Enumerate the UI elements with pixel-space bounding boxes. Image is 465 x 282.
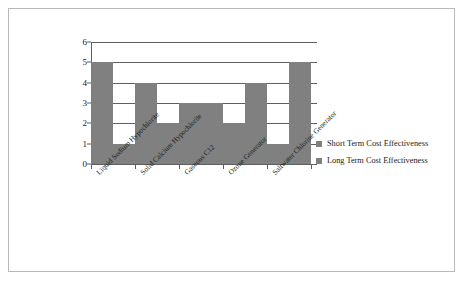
x-tick-mark xyxy=(267,164,268,169)
x-tick-mark xyxy=(135,164,136,169)
y-tick-label-5: 5 xyxy=(83,58,88,67)
gridline-tick-right-6 xyxy=(311,42,317,43)
legend-item[interactable]: Long Term Cost Effectiveness xyxy=(316,157,456,165)
bar xyxy=(91,62,113,164)
x-tick-mark xyxy=(311,164,312,169)
chart-legend: Short Term Cost EffectivenessLong Term C… xyxy=(316,140,456,175)
gridline-tick-right-5 xyxy=(311,62,317,63)
legend-item-label: Long Term Cost Effectiveness xyxy=(327,157,428,165)
legend-item[interactable]: Short Term Cost Effectiveness xyxy=(316,140,456,148)
chart-page-frame: 6543210 Liquid Sodium HypochloriteSolid … xyxy=(8,8,455,272)
legend-swatch-icon xyxy=(316,158,322,164)
x-tick-mark xyxy=(179,164,180,169)
y-tick-label-0: 0 xyxy=(83,160,88,169)
y-tick-label-3: 3 xyxy=(83,99,88,108)
gridline-tick-right-4 xyxy=(311,83,317,84)
y-tick-label-2: 2 xyxy=(83,119,88,128)
legend-item-label: Short Term Cost Effectiveness xyxy=(327,140,428,148)
y-tick-label-4: 4 xyxy=(83,78,88,87)
x-tick-mark xyxy=(223,164,224,169)
bar-group xyxy=(179,42,223,164)
gridline-tick-right-3 xyxy=(311,103,317,104)
x-tick-mark xyxy=(91,164,92,169)
y-tick-label-1: 1 xyxy=(83,139,88,148)
y-tick-label-6: 6 xyxy=(83,38,88,47)
legend-swatch-icon xyxy=(316,141,322,147)
